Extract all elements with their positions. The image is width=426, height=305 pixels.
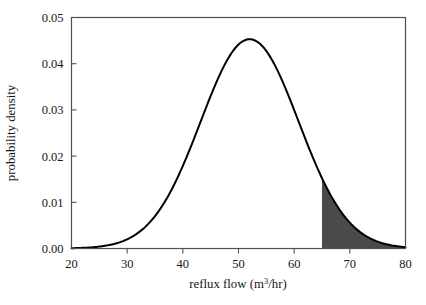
shaded-tail-region	[322, 178, 406, 248]
chart-figure: 0.000.010.020.030.040.05 20304050607080 …	[0, 0, 426, 305]
y-tick-label: 0.03	[42, 103, 64, 117]
y-tick-label: 0.05	[42, 11, 64, 25]
y-tick-label: 0.00	[42, 242, 64, 256]
x-axis-title: reflux flow (m3/hr)	[189, 276, 286, 292]
y-tick-label: 0.04	[42, 57, 65, 71]
x-tick-label: 80	[399, 257, 412, 271]
x-tick-label: 40	[177, 257, 190, 271]
x-axis-tick-marks	[127, 249, 350, 254]
y-tick-label: 0.02	[42, 150, 64, 164]
probability-density-chart: 0.000.010.020.030.040.05 20304050607080 …	[0, 0, 426, 305]
density-curve	[72, 39, 406, 248]
x-tick-label: 70	[344, 257, 357, 271]
x-tick-label: 60	[288, 257, 301, 271]
y-axis-tick-labels: 0.000.010.020.030.040.05	[42, 11, 65, 256]
y-axis-title: probability density	[4, 84, 18, 181]
y-axis-tick-marks	[72, 64, 77, 203]
x-axis-tick-labels: 20304050607080	[65, 257, 412, 271]
plot-frame	[72, 18, 406, 249]
x-tick-label: 50	[232, 257, 245, 271]
x-tick-label: 20	[65, 257, 78, 271]
y-tick-label: 0.01	[42, 196, 64, 210]
x-tick-label: 30	[121, 257, 134, 271]
